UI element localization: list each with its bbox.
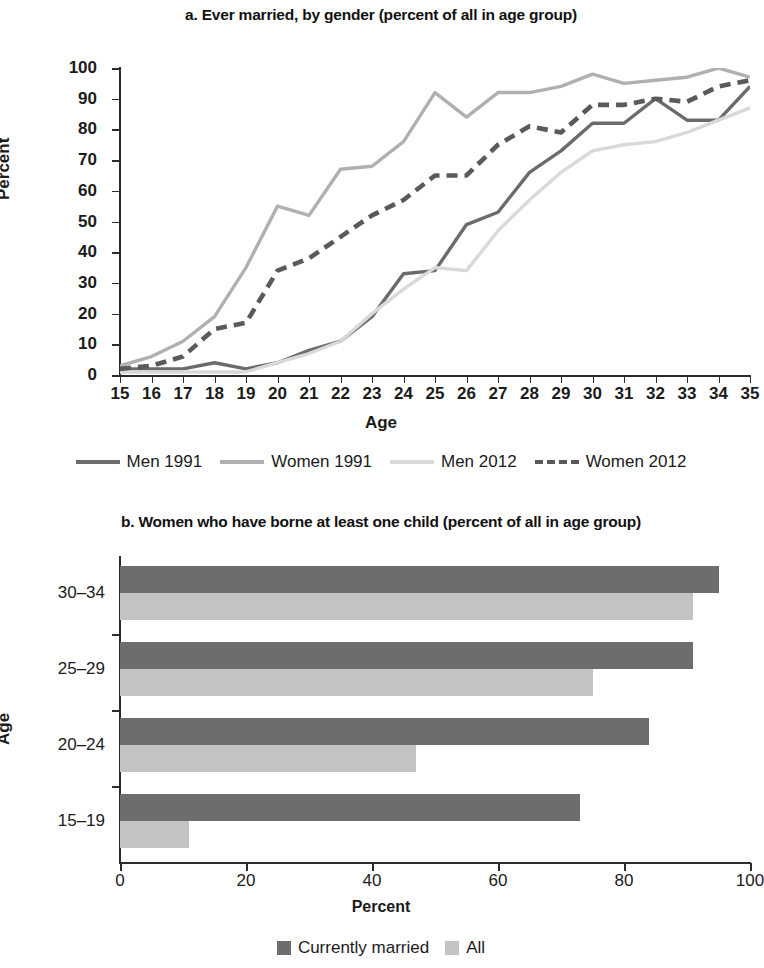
x-tick-mark <box>750 863 752 871</box>
bar-all <box>120 745 416 772</box>
x-tick-label: 60 <box>489 871 508 891</box>
x-tick-label: 0 <box>115 871 124 891</box>
x-tick-mark <box>498 863 500 871</box>
category-label: 25–29 <box>15 659 105 679</box>
legend-label: All <box>466 938 485 958</box>
category-tick <box>112 634 120 636</box>
category-label: 15–19 <box>15 811 105 831</box>
legend-color-swatch <box>277 941 291 955</box>
x-tick-mark <box>120 863 122 871</box>
legend-item-currently-married: Currently married <box>277 938 429 958</box>
x-tick-label: 20 <box>237 871 256 891</box>
legend-item-all: All <box>445 938 485 958</box>
legend-label: Currently married <box>298 938 429 958</box>
bar-currently-married <box>120 718 649 745</box>
bar-currently-married <box>120 566 719 593</box>
bar-all <box>120 821 189 848</box>
x-tick-mark <box>372 863 374 871</box>
bar-all <box>120 669 593 696</box>
bar-chart-y-axis-label: Age <box>0 713 14 745</box>
x-tick-label: 40 <box>363 871 382 891</box>
x-tick-mark <box>246 863 248 871</box>
x-tick-label: 80 <box>615 871 634 891</box>
bar-all <box>120 593 693 620</box>
bar-chart-x-axis <box>119 862 751 864</box>
panel-b-title: b. Women who have borne at least one chi… <box>0 513 762 531</box>
bar-chart-x-axis-label: Percent <box>0 898 762 916</box>
bar-currently-married <box>120 642 693 669</box>
legend-color-swatch <box>445 941 459 955</box>
category-label: 20–24 <box>15 735 105 755</box>
x-tick-mark <box>624 863 626 871</box>
category-tick <box>112 710 120 712</box>
category-tick <box>112 786 120 788</box>
bar-currently-married <box>120 794 580 821</box>
bar-chart-legend: Currently marriedAll <box>0 938 762 958</box>
bar-chart-plot-area <box>120 558 750 862</box>
category-label: 30–34 <box>15 583 105 603</box>
x-tick-label: 100 <box>736 871 764 891</box>
